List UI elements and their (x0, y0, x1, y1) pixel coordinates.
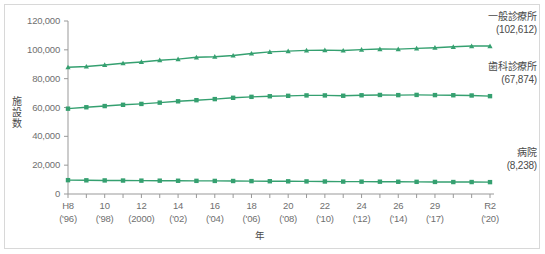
series-marker-1 (231, 96, 235, 100)
series-marker-1 (378, 93, 382, 97)
series-marker-2 (323, 179, 327, 183)
series-marker-1 (286, 94, 290, 98)
series-marker-1 (359, 93, 363, 97)
series-marker-1 (176, 99, 180, 103)
series-marker-1 (488, 94, 492, 98)
series-marker-1 (341, 94, 345, 98)
series-marker-2 (359, 179, 363, 183)
series-marker-2 (469, 180, 473, 184)
series-marker-2 (414, 180, 418, 184)
series-marker-1 (268, 94, 272, 98)
series-marker-1 (158, 100, 162, 104)
series-marker-2 (433, 180, 437, 184)
series-marker-1 (469, 93, 473, 97)
series-marker-2 (84, 178, 88, 182)
series-marker-2 (488, 180, 492, 184)
line-chart-plot (0, 0, 545, 254)
series-marker-1 (396, 93, 400, 97)
series-marker-1 (139, 102, 143, 106)
series-marker-2 (304, 179, 308, 183)
series-marker-2 (268, 179, 272, 183)
series-marker-2 (231, 179, 235, 183)
series-marker-2 (378, 179, 382, 183)
series-marker-2 (249, 179, 253, 183)
series-marker-1 (102, 104, 106, 108)
series-marker-1 (323, 93, 327, 97)
series-marker-2 (139, 178, 143, 182)
series-marker-1 (414, 93, 418, 97)
series-marker-2 (451, 180, 455, 184)
series-line-2 (68, 180, 490, 182)
series-marker-2 (66, 178, 70, 182)
series-marker-1 (213, 97, 217, 101)
series-marker-2 (213, 179, 217, 183)
series-marker-1 (66, 106, 70, 110)
series-marker-1 (249, 95, 253, 99)
series-marker-1 (194, 98, 198, 102)
series-marker-1 (433, 93, 437, 97)
series-marker-2 (396, 180, 400, 184)
series-marker-2 (176, 179, 180, 183)
series-marker-2 (121, 178, 125, 182)
series-marker-2 (194, 179, 198, 183)
series-marker-1 (84, 105, 88, 109)
series-marker-2 (158, 178, 162, 182)
series-line-0 (68, 46, 490, 67)
series-marker-2 (102, 178, 106, 182)
series-marker-1 (304, 93, 308, 97)
series-marker-2 (341, 179, 345, 183)
series-marker-1 (451, 93, 455, 97)
series-marker-2 (286, 179, 290, 183)
series-line-1 (68, 95, 490, 109)
series-marker-1 (121, 103, 125, 107)
